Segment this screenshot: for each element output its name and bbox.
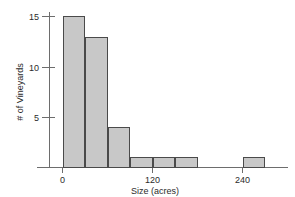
histogram-bar [86, 37, 108, 167]
histogram-bar [131, 158, 153, 167]
y-tick-label-10: 10 [29, 63, 39, 73]
histogram-bar [176, 158, 198, 167]
histogram-chart: 15 10 5 # of Vineyards 0 120 240 Size (a… [0, 0, 295, 197]
y-tick-label-5: 5 [34, 113, 39, 123]
chart-canvas: 15 10 5 # of Vineyards 0 120 240 Size (a… [0, 0, 295, 197]
histogram-bar [243, 158, 265, 167]
x-tick-label-240: 240 [235, 175, 250, 185]
x-axis-title: Size (acres) [131, 186, 179, 196]
x-tick-label-0: 0 [60, 175, 65, 185]
histogram-bar [108, 128, 130, 167]
histogram-bar [63, 17, 85, 167]
x-tick-label-120: 120 [145, 175, 160, 185]
histogram-bar [153, 158, 175, 167]
y-tick-label-15: 15 [29, 12, 39, 22]
y-axis-title: # of Vineyards [15, 63, 25, 121]
